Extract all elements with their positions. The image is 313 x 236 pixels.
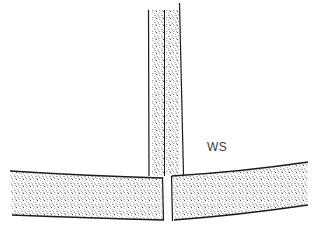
wall-left-strip [152, 10, 164, 176]
left-slab-fill [10, 171, 163, 220]
cross-section-diagram [0, 0, 313, 236]
right-slab [172, 162, 309, 221]
wall-left-outline [149, 10, 150, 176]
vertical-wall [149, 3, 184, 176]
wall-right-strip [166, 10, 179, 176]
ws-label: WS [207, 141, 227, 153]
wall-right-outline [180, 3, 184, 175]
left-slab [10, 171, 164, 220]
